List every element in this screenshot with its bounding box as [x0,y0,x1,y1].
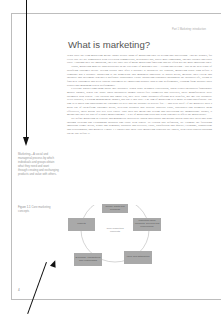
paragraph: Everyone knows something about 'hot' pro… [67,87,212,117]
figure-caption: Figure 1.1 Core marketing concepts [18,205,58,213]
node-marketing-offers: Marketing offers (products, services and… [133,218,161,231]
paragraph: Today, marketing must be understood not … [67,65,212,87]
cycle-arrows-icon [60,205,220,285]
paragraph: We define marketing as a social and mana… [67,117,212,136]
node-markets: Markets [68,218,95,231]
page-title: What is marketing? [68,39,150,50]
margin-definition: Marketing—A social and managerial proces… [18,152,59,177]
body-text: What does the term marketing mean? Many … [67,54,212,135]
page-number: 4 [18,288,20,292]
arrowhead-down-icon [23,137,29,146]
diagram-center-label: Core marketing concepts [104,227,126,233]
running-head: Part 1 Marketing: introduction [172,28,206,31]
node-needs: Needs, wants and demands [102,204,128,213]
node-value-satisfaction: Value and satisfaction [124,251,152,264]
node-exchange: Exchange, transactions and relationships [74,253,102,266]
annotation-arrow-top [26,0,27,140]
core-concepts-diagram: Needs, wants and demands Marketing offer… [60,205,220,285]
